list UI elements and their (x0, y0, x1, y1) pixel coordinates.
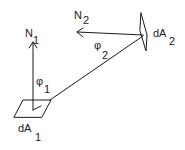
n1-base-tick (33, 106, 41, 110)
normal-n1-label: N (25, 28, 33, 39)
surface-da1-label: dA (18, 123, 31, 134)
view-factor-diagram: N 1 N 2 φ 1 φ 2 dA 1 dA 2 (0, 0, 185, 150)
angle-phi2-subscript: 2 (102, 50, 108, 61)
normal-n2-label: N (74, 10, 82, 21)
normal-n2-line (77, 32, 143, 35)
angle-phi1-subscript: 1 (44, 84, 50, 95)
surface-da2-subscript: 2 (169, 36, 175, 47)
angle-phi2-label: φ (94, 40, 101, 51)
surface-da1-subscript: 1 (35, 132, 41, 143)
normal-n2-subscript: 2 (83, 15, 89, 26)
angle-phi1-label: φ (36, 76, 43, 87)
normal-n1-subscript: 1 (33, 35, 39, 46)
surface-da2-shape (140, 13, 147, 51)
surface-da2-label: dA (153, 28, 166, 39)
